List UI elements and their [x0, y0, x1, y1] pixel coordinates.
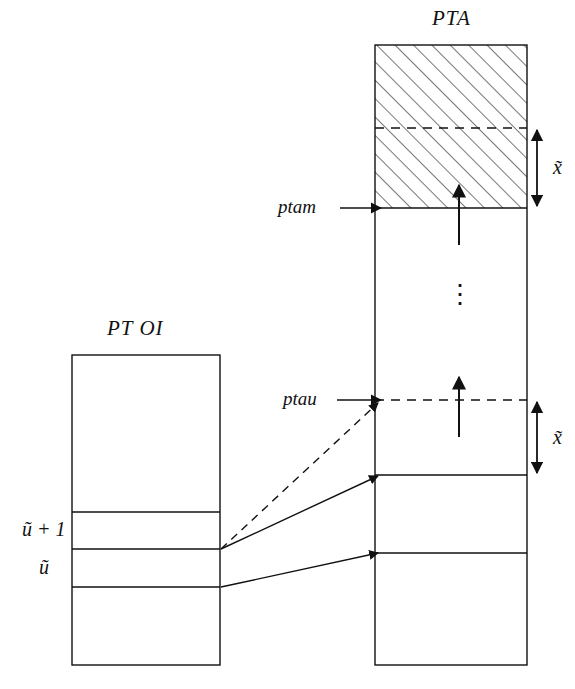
ptoi-box-outline [72, 355, 220, 665]
ptoi-row-label-u: ũ [39, 557, 49, 577]
pta-array [375, 45, 527, 665]
ptam-label: ptam [278, 197, 316, 216]
diagram-svg [0, 0, 575, 689]
pta-title: PTA [432, 8, 471, 29]
connector-solid-lower [221, 553, 378, 587]
figure-canvas: PTA PT OI ptam ptau x̃ x̃ ũ + 1 ũ ⋮ [0, 0, 575, 689]
upper-x-tilde-label: x̃ [553, 157, 562, 177]
connector-dashed-to-ptau [221, 403, 378, 549]
lower-x-tilde-label: x̃ [553, 427, 562, 447]
ptoi-row-label-u-plus-1: ũ + 1 [22, 519, 66, 539]
ptau-label: ptau [283, 389, 317, 408]
pta-vertical-ellipsis: ⋮ [447, 282, 473, 308]
connector-solid-upper [221, 476, 378, 549]
ptoi-title: PT OI [107, 318, 164, 339]
pta-hatched-region [375, 45, 527, 208]
ptoi-array [72, 355, 220, 665]
